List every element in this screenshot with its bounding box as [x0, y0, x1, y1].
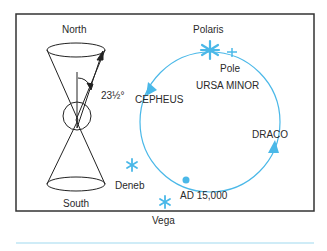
- label-south: South: [63, 198, 89, 209]
- label-draco: DRACO: [252, 129, 288, 140]
- label-north: North: [62, 24, 86, 35]
- ad-15000-marker-icon: [183, 177, 190, 184]
- label-polaris: Polaris: [193, 24, 224, 35]
- label-ursa-minor: URSA MINOR: [196, 80, 259, 91]
- label-cepheus: CEPHEUS: [135, 94, 184, 105]
- precession-diagram: North South 23½° Polaris Pole URSA MINOR…: [0, 0, 327, 251]
- label-deneb: Deneb: [115, 180, 145, 191]
- label-vega: Vega: [152, 215, 175, 226]
- label-ad-15000: AD 15,000: [180, 190, 228, 201]
- label-pole: Pole: [220, 63, 240, 74]
- label-angle: 23½°: [101, 90, 124, 101]
